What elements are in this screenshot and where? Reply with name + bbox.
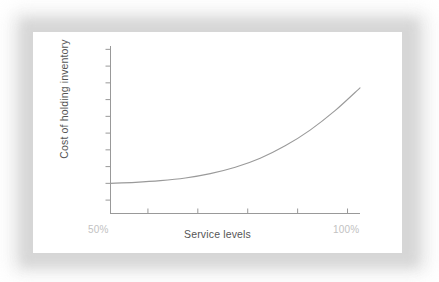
chart-svg — [33, 32, 402, 253]
screenshot-stage: 50% 100% Service levels Cost of holding … — [0, 0, 439, 282]
x-axis-ticks — [148, 209, 348, 214]
y-axis-title: Cost of holding inventory — [58, 24, 70, 174]
chart-card: 50% 100% Service levels Cost of holding … — [33, 32, 402, 253]
x-axis-title: Service levels — [33, 228, 402, 240]
y-axis-ticks — [106, 49, 111, 200]
series-line-cost-of-holding-inventory — [111, 88, 361, 183]
chart-plot-area — [33, 32, 402, 253]
